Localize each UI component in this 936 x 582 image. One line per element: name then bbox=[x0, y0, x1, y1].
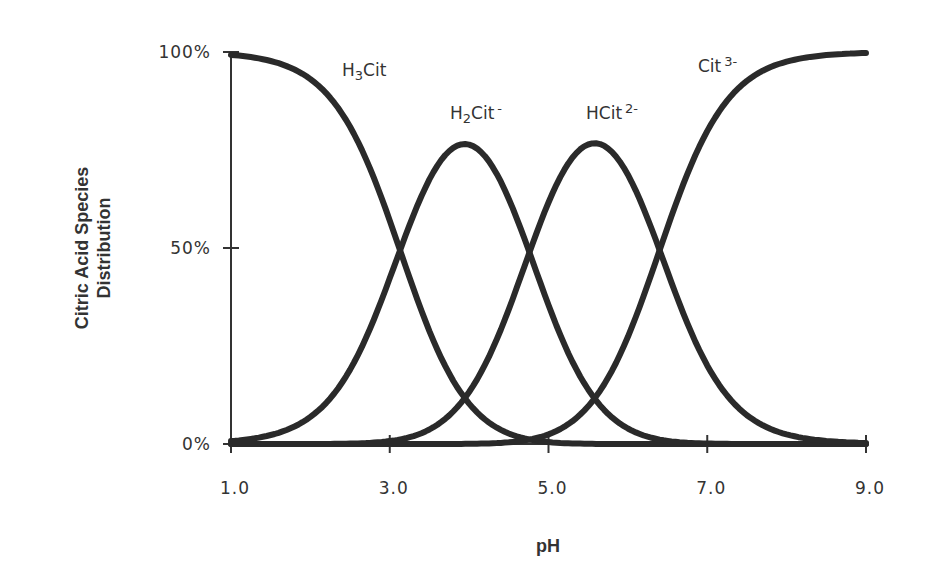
y-tick-label: 100% bbox=[158, 42, 211, 62]
species-label: H3Cit bbox=[342, 60, 387, 83]
x-tick-label: 1.0 bbox=[220, 478, 250, 498]
curve-h3cit bbox=[231, 55, 866, 444]
species-label: Cit3- bbox=[698, 54, 738, 76]
x-tick-label: 7.0 bbox=[696, 478, 726, 498]
x-axis-title: pH bbox=[536, 536, 560, 556]
x-tick-label: 3.0 bbox=[379, 478, 409, 498]
species-distribution-chart: 0%50%100%1.03.05.07.09.0 H3CitH2Cit-HCit… bbox=[0, 0, 936, 582]
y-tick-label: 50% bbox=[170, 238, 211, 258]
svg-text:Citric Acid Species: Citric Acid Species bbox=[72, 167, 92, 329]
species-label: H2Cit- bbox=[450, 101, 502, 126]
x-tick-label: 5.0 bbox=[537, 478, 567, 498]
species-labels: H3CitH2Cit-HCit2-Cit3- bbox=[342, 54, 738, 126]
y-tick-label: 0% bbox=[182, 434, 211, 454]
y-axis-title: Citric Acid Species Distribution bbox=[72, 167, 114, 329]
x-tick-label: 9.0 bbox=[855, 478, 885, 498]
species-label: HCit2- bbox=[586, 101, 638, 123]
species-curves bbox=[231, 53, 866, 444]
curve-h2cit bbox=[231, 144, 866, 444]
svg-text:Distribution: Distribution bbox=[94, 198, 114, 299]
curve-cit3 bbox=[231, 53, 866, 444]
